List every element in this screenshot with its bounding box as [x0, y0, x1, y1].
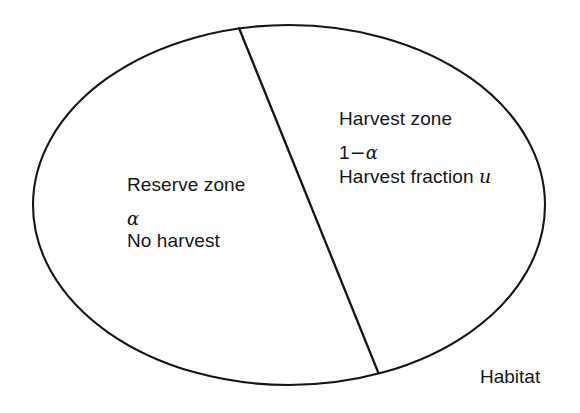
harvest-fraction-text: Harvest fraction: [339, 166, 474, 187]
harvest-fraction-minus-sign: −: [350, 141, 366, 163]
harvest-fraction-alpha-symbol: α: [366, 142, 378, 163]
harvest-fraction-prefix: 1: [339, 142, 350, 163]
harvest-zone-description: Harvest fraction u: [339, 165, 491, 188]
harvest-zone-spacer: [339, 130, 491, 141]
harvest-zone-title: Harvest zone: [339, 108, 491, 130]
habitat-label: Habitat: [480, 366, 540, 388]
reserve-zone-title: Reserve zone: [127, 174, 245, 196]
habitat-ellipse-outline: [33, 25, 545, 385]
harvest-zone-fraction: 1−α: [339, 141, 491, 164]
harvest-zone-label-group: Harvest zone 1−α Harvest fraction u: [339, 108, 491, 188]
habitat-zonation-diagram: Harvest zone 1−α Harvest fraction u Rese…: [0, 0, 580, 413]
habitat-diagram-graphic: [0, 0, 580, 413]
reserve-zone-alpha-symbol: α: [127, 208, 245, 229]
reserve-zone-label-group: Reserve zone α No harvest: [127, 174, 245, 252]
reserve-zone-description: No harvest: [127, 230, 245, 252]
reserve-zone-spacer: [127, 196, 245, 208]
harvest-fraction-variable-u: u: [479, 165, 491, 187]
